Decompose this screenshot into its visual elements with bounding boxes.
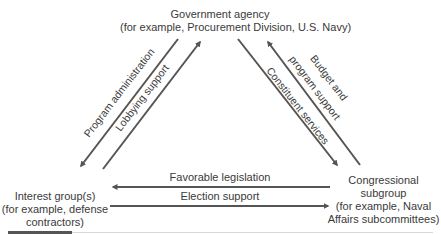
label-election-support: Election support (110, 190, 330, 202)
label-favorable-legislation: Favorable legislation (110, 171, 330, 183)
footer-divider (72, 232, 433, 233)
arrow-lobbying-support (103, 42, 200, 169)
footer-accent-bar (8, 231, 72, 234)
